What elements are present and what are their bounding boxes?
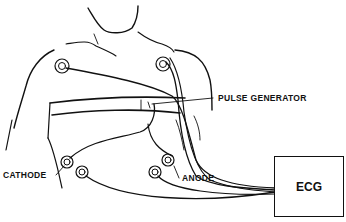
pulse-generator-label: PULSE GENERATOR [218, 93, 307, 103]
ecg-device-box: ECG [274, 156, 344, 217]
left-shoulder [66, 42, 116, 56]
neck-line [94, 34, 98, 44]
left-arm-inner [6, 120, 12, 150]
neck-outline [88, 6, 138, 33]
lead-lower-right [158, 176, 275, 194]
lead-right-shoulder-2 [170, 58, 275, 192]
cathode-label: CATHODE [3, 170, 47, 180]
chest-band-bottom [52, 110, 180, 115]
electrode-left-shoulder [55, 59, 69, 73]
ecg-label: ECG [296, 180, 322, 194]
anode-leader [174, 166, 179, 178]
left-arm-outline [14, 50, 54, 128]
chest-band-top [50, 97, 185, 103]
right-shoulder [138, 32, 174, 52]
pulse-generator-marker [141, 100, 150, 110]
lead-anode [148, 124, 172, 156]
torso-left-side [48, 138, 62, 188]
band-left-end [48, 103, 50, 138]
electrode-lower-right [149, 166, 161, 178]
lead-right-shoulder [166, 62, 275, 190]
rib-line-2 [194, 116, 200, 140]
anode-label: ANODE [182, 173, 214, 183]
lead-left-shoulder [66, 68, 275, 188]
